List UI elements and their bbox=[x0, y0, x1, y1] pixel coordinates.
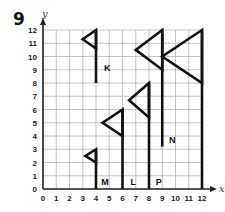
y-tick-label: 5 bbox=[33, 119, 38, 128]
x-tick-label: 9 bbox=[160, 194, 165, 203]
x-tick-label: 0 bbox=[41, 194, 46, 203]
flag-triangle bbox=[129, 83, 149, 117]
y-tick-label: 7 bbox=[33, 92, 38, 101]
x-tick-label: 6 bbox=[120, 194, 125, 203]
y-tick-label: 8 bbox=[33, 79, 38, 88]
y-tick-label: 1 bbox=[33, 172, 38, 181]
x-tick-label: 7 bbox=[134, 194, 139, 203]
flag-plot: xy01234567891011120123456789101112KMLPN bbox=[0, 0, 225, 212]
y-tick-label: 3 bbox=[33, 145, 38, 154]
x-tick-label: 5 bbox=[107, 194, 112, 203]
flag-label: L bbox=[130, 177, 136, 187]
flag-label: P bbox=[156, 177, 162, 187]
x-tick-label: 4 bbox=[94, 194, 99, 203]
y-tick-label: 4 bbox=[33, 132, 38, 141]
x-tick-label: 1 bbox=[54, 194, 59, 203]
y-tick-label: 0 bbox=[33, 185, 38, 194]
y-tick-label: 2 bbox=[33, 159, 38, 168]
y-axis-arrow-icon bbox=[40, 18, 46, 25]
coordinate-grid-figure: 9 xy01234567891011120123456789101112KMLP… bbox=[0, 0, 225, 212]
y-axis-label: y bbox=[41, 8, 48, 19]
x-axis-arrow-icon bbox=[210, 186, 217, 192]
x-tick-label: 2 bbox=[67, 194, 72, 203]
x-tick-label: 10 bbox=[171, 194, 180, 203]
flag-triangle bbox=[85, 149, 96, 162]
flag-triangle bbox=[83, 30, 96, 49]
y-tick-label: 6 bbox=[33, 106, 38, 115]
flag-label: M bbox=[101, 177, 109, 187]
x-axis-label: x bbox=[219, 183, 225, 194]
y-tick-label: 12 bbox=[28, 26, 37, 35]
flag-label: K bbox=[104, 63, 111, 73]
y-tick-label: 11 bbox=[29, 39, 38, 48]
y-tick-label: 10 bbox=[28, 53, 37, 62]
x-tick-label: 12 bbox=[198, 194, 207, 203]
flag-label: N bbox=[169, 135, 176, 145]
x-tick-label: 3 bbox=[81, 194, 86, 203]
y-tick-label: 9 bbox=[33, 66, 38, 75]
x-tick-label: 8 bbox=[147, 194, 152, 203]
x-tick-label: 11 bbox=[185, 194, 194, 203]
